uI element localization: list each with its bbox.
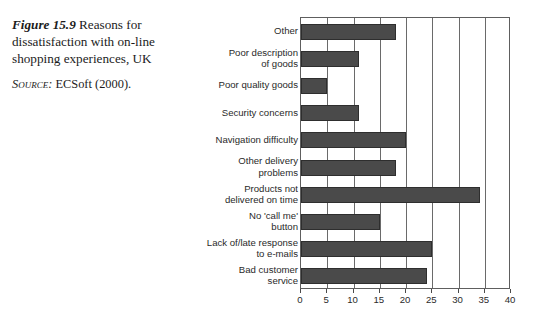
category-axis-labels: OtherPoor description of goodsPoor quali… (186, 17, 298, 289)
bar (301, 160, 396, 176)
category-label: Poor description of goods (186, 47, 298, 69)
bar-series (301, 18, 509, 288)
axis-tick-40 (510, 289, 511, 293)
category-label: Other (186, 25, 298, 36)
axis-tick-label: 20 (400, 294, 411, 305)
category-label: No 'call me' button (186, 210, 298, 232)
axis-tick-label: 0 (297, 294, 302, 305)
source-text: ECSoft (2000). (55, 77, 131, 91)
plot-area (300, 17, 510, 289)
category-label: Bad customer service (186, 264, 298, 286)
category-label: Poor quality goods (186, 79, 298, 90)
bar (301, 24, 396, 40)
axis-tick-label: 5 (324, 294, 329, 305)
axis-tick-label: 35 (478, 294, 489, 305)
category-label: Other delivery problems (186, 155, 298, 177)
bar (301, 268, 427, 284)
figure-number: Figure 15.9 (12, 17, 76, 32)
category-label: Security concerns (186, 107, 298, 118)
axis-tick-label: 25 (426, 294, 437, 305)
axis-tick-35 (484, 289, 485, 293)
category-label: Navigation difficulty (186, 134, 298, 145)
bar-chart: OtherPoor description of goodsPoor quali… (186, 8, 526, 310)
axis-tick-label: 30 (452, 294, 463, 305)
axis-tick-0 (300, 289, 301, 293)
axis-tick-label: 40 (505, 294, 516, 305)
bar (301, 214, 380, 230)
figure-caption: Figure 15.9 Reasons for dissatisfaction … (12, 16, 170, 92)
value-axis: 0510152025303540 (300, 289, 510, 315)
axis-tick-30 (458, 289, 459, 293)
axis-tick-5 (326, 289, 327, 293)
axis-tick-10 (353, 289, 354, 293)
bar (301, 187, 480, 203)
bar (301, 105, 359, 121)
bar (301, 78, 327, 94)
axis-tick-25 (431, 289, 432, 293)
axis-tick-label: 15 (373, 294, 384, 305)
category-label: Lack of/late response to e-mails (186, 237, 298, 259)
bar (301, 51, 359, 67)
figure-container: Figure 15.9 Reasons for dissatisfaction … (0, 0, 536, 317)
bar (301, 241, 432, 257)
figure-source: Source: ECSoft (2000). (12, 76, 170, 92)
axis-tick-15 (379, 289, 380, 293)
bar (301, 132, 406, 148)
category-label: Products not delivered on time (186, 183, 298, 205)
source-label: Source: (12, 77, 52, 91)
axis-tick-label: 10 (347, 294, 358, 305)
axis-tick-20 (405, 289, 406, 293)
